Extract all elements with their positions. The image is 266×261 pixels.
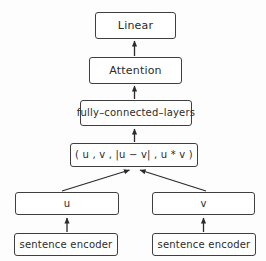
node-linear: Linear bbox=[95, 12, 176, 39]
node-fully-connected-layers: fully–connected–layers bbox=[80, 100, 192, 126]
node-feature-tuple: ( u , v , |u − v| , u * v ) bbox=[70, 143, 198, 167]
edge-layer bbox=[0, 0, 266, 261]
edge-v-to-tuple bbox=[140, 170, 206, 191]
node-feature-tuple-label: ( u , v , |u − v| , u * v ) bbox=[75, 150, 193, 160]
node-v: v bbox=[152, 192, 255, 215]
node-sentence-encoder-right: sentence encoder bbox=[152, 233, 256, 256]
node-attention-label: Attention bbox=[109, 65, 162, 76]
node-v-label: v bbox=[200, 199, 206, 209]
node-attention: Attention bbox=[89, 57, 182, 84]
node-fully-connected-layers-label: fully–connected–layers bbox=[77, 108, 195, 118]
architecture-diagram: Linear Attention fully–connected–layers … bbox=[0, 0, 266, 261]
node-u-label: u bbox=[64, 199, 71, 209]
node-sentence-encoder-right-label: sentence encoder bbox=[158, 240, 251, 250]
node-u: u bbox=[15, 192, 119, 215]
node-sentence-encoder-left-label: sentence encoder bbox=[20, 240, 113, 250]
node-linear-label: Linear bbox=[118, 20, 153, 31]
edge-u-to-tuple bbox=[62, 170, 130, 191]
node-sentence-encoder-left: sentence encoder bbox=[14, 233, 118, 256]
